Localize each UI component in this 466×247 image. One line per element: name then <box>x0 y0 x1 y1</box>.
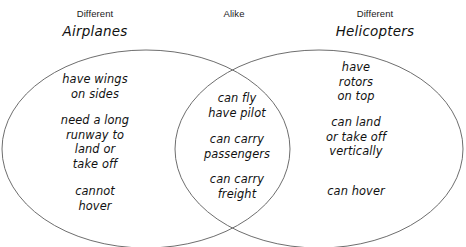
center-item-group-1: can carry passengers <box>182 132 292 161</box>
right-header-kind: Different <box>310 8 440 19</box>
center-item-line: can carry <box>182 172 292 187</box>
left-item-line: take off <box>35 157 155 172</box>
center-item-group-2: can carry freight <box>182 172 292 201</box>
right-item-group-2: can hover <box>300 184 412 199</box>
right-item-line: vertically <box>300 144 412 159</box>
center-header: Alike <box>178 8 290 19</box>
left-item-group-2: cannot hover <box>35 184 155 213</box>
left-item-line: land or <box>35 142 155 157</box>
center-header-title: Alike <box>178 8 290 19</box>
left-item-group-0: have wings on sides <box>35 72 155 101</box>
left-item-line: hover <box>35 199 155 214</box>
left-header-title: Airplanes <box>35 23 155 39</box>
center-item-group-0: can fly have pilot <box>182 91 292 120</box>
right-item-line: or take off <box>300 130 412 145</box>
right-header: Different Helicopters <box>310 8 440 39</box>
left-item-group-1: need a long runway to land or take off <box>35 113 155 171</box>
right-item-group-1: can land or take off vertically <box>300 115 412 159</box>
right-item-line: on top <box>300 89 412 104</box>
center-item-line: passengers <box>182 147 292 162</box>
right-item-line: can land <box>300 115 412 130</box>
center-item-line: can fly <box>182 91 292 106</box>
right-item-line: rotors <box>300 75 412 90</box>
left-item-line: need a long <box>35 113 155 128</box>
right-header-title: Helicopters <box>310 23 440 39</box>
center-item-line: freight <box>182 187 292 202</box>
right-item-line: have <box>300 60 412 75</box>
venn-diagram-canvas: Different Airplanes Alike Different Heli… <box>0 0 466 247</box>
center-item-line: have pilot <box>182 106 292 121</box>
left-item-line: have wings <box>35 72 155 87</box>
left-item-line: runway to <box>35 128 155 143</box>
right-item-group-0: have rotors on top <box>300 60 412 104</box>
left-item-line: cannot <box>35 184 155 199</box>
left-header: Different Airplanes <box>35 8 155 39</box>
left-item-line: on sides <box>35 87 155 102</box>
right-item-line: can hover <box>300 184 412 199</box>
center-item-line: can carry <box>182 132 292 147</box>
left-header-kind: Different <box>35 8 155 19</box>
